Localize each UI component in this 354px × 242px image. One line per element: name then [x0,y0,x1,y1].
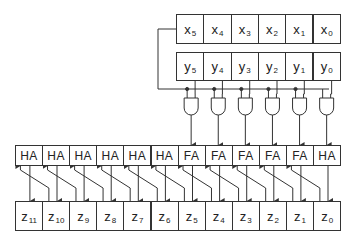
full-adder-label: FA [238,149,254,163]
z-cell: z5 [178,201,206,231]
z-cell-label: z [213,209,220,224]
x-cell-subscript: 1 [301,29,305,38]
y-cell-label: y [293,59,300,74]
z-cell: z10 [42,201,70,231]
x-cell-subscript: 4 [219,29,223,38]
x-cell-subscript: 5 [192,29,196,38]
z-cell-subscript: 1 [302,216,306,225]
half-adder: HA [42,145,70,166]
y-cell-subscript: 0 [328,66,332,75]
y-cell: y2 [258,52,286,81]
z-cell: z4 [205,201,233,231]
z-cell-subscript: 5 [193,216,197,225]
half-adder-label: HA [74,149,92,163]
y-cell-subscript: 3 [246,66,250,75]
y-cell-label: y [184,59,191,74]
half-adder: HA [15,145,43,166]
z-cell: z11 [15,201,43,231]
y-cell: y4 [203,52,231,81]
z-cell-label: z [104,209,111,224]
full-adder: FA [259,145,287,166]
multiplier-diagram: x5x4x3x2x1x0y5y4y3y2y1y0HAHAHAHAHAHAFAFA… [0,0,354,242]
x-cell-subscript: 3 [246,29,250,38]
y-cell: y1 [285,52,313,81]
z-cell-label: z [131,209,138,224]
x-cell-label: x [211,22,218,37]
x-cell: x5 [176,14,204,44]
z-cell-label: z [186,209,193,224]
x-cell-label: x [239,22,246,37]
half-adder-label: HA [102,149,120,163]
z-cell-subscript: 2 [274,216,278,225]
z-cell-label: z [240,209,247,224]
z-cell-subscript: 6 [166,216,170,225]
x-cell: x1 [285,14,313,44]
half-adder-label: HA [156,149,174,163]
z-cell: z9 [69,201,97,231]
half-adder-label: HA [129,149,147,163]
x-cell-subscript: 2 [274,29,278,38]
z-cell-subscript: 8 [112,216,116,225]
z-cell-label: z [321,209,328,224]
z-cell: z0 [313,201,341,231]
half-adder: HA [151,145,179,166]
y-cell-label: y [239,59,246,74]
full-adder: FA [205,145,233,166]
full-adder: FA [286,145,314,166]
y-cell: y3 [231,52,259,81]
x-cell: x3 [231,14,259,44]
z-cell-label: z [294,209,301,224]
y-cell: y5 [176,52,204,81]
z-cell: z3 [232,201,260,231]
z-cell-label: z [48,209,55,224]
full-adder-label: FA [292,149,308,163]
z-cell-label: z [21,209,28,224]
x-cell: x4 [203,14,231,44]
half-adder: HA [123,145,151,166]
y-cell: y0 [313,52,341,81]
z-cell-subscript: 10 [55,216,64,225]
z-cell-subscript: 11 [29,216,37,225]
half-adder-label: HA [20,149,38,163]
y-cell-label: y [266,59,273,74]
z-cell: z2 [259,201,287,231]
x-cell-label: x [321,22,328,37]
full-adder-label: FA [184,149,200,163]
x-cell-label: x [184,22,191,37]
z-cell-subscript: 3 [247,216,251,225]
x-cell-subscript: 0 [328,29,332,38]
half-adder-label: HA [47,149,65,163]
half-adder-label: HA [318,149,336,163]
half-adder: HA [96,145,124,166]
full-adder-label: FA [211,149,227,163]
x-cell-label: x [293,22,300,37]
z-cell-subscript: 0 [329,216,333,225]
z-cell-subscript: 9 [85,216,89,225]
z-cell-label: z [77,209,84,224]
full-adder: FA [178,145,206,166]
half-adder: HA [69,145,97,166]
half-adder: HA [313,145,341,166]
z-cell: z6 [151,201,179,231]
x-cell-label: x [266,22,273,37]
z-cell: z1 [286,201,314,231]
y-cell-subscript: 1 [301,66,305,75]
full-adder-label: FA [265,149,281,163]
full-adder: FA [232,145,260,166]
z-cell-subscript: 7 [139,216,143,225]
z-cell-label: z [159,209,166,224]
y-cell-subscript: 4 [219,66,223,75]
y-cell-subscript: 5 [192,66,196,75]
z-cell-label: z [267,209,274,224]
y-cell-subscript: 2 [274,66,278,75]
y-cell-label: y [211,59,218,74]
y-cell-label: y [321,59,328,74]
x-cell: x0 [313,14,341,44]
z-cell: z8 [96,201,124,231]
x-cell: x2 [258,14,286,44]
z-cell-subscript: 4 [220,216,224,225]
z-cell: z7 [123,201,151,231]
